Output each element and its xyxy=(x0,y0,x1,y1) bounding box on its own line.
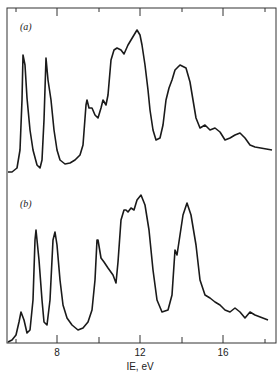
tick-label-16: 16 xyxy=(217,347,229,358)
panel-label-a: (a) xyxy=(20,21,32,33)
panel-label-b: (b) xyxy=(20,198,32,210)
spectrum-chart: (a) (b) 8 12 16 IE, eV xyxy=(0,0,279,375)
tick-label-8: 8 xyxy=(54,347,60,358)
top-ticks xyxy=(16,8,265,16)
bottom-ticks xyxy=(16,335,265,343)
plot-frame xyxy=(7,8,276,343)
spectrum-trace-a xyxy=(8,30,272,172)
tick-label-12: 12 xyxy=(134,347,146,358)
spectrum-trace-b xyxy=(8,195,268,342)
x-axis-title: IE, eV xyxy=(126,361,154,372)
